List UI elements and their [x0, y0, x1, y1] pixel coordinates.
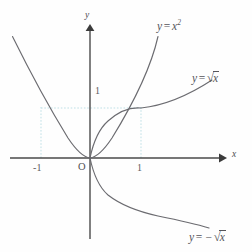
- sqrt-curve-label: y=√x: [192, 71, 219, 85]
- sqrt-label-radical: √x: [207, 71, 219, 85]
- parabola-curve-label: y=x2: [157, 19, 181, 32]
- negative-sqrt-curve-label: y=−√x: [189, 230, 226, 244]
- parabola-label-exponent: 2: [177, 18, 181, 27]
- negative-sqrt-label-sign: −: [204, 231, 214, 243]
- y-tick-label-one: 1: [95, 86, 100, 96]
- y-axis-label: y: [85, 11, 89, 21]
- x-axis-label: x: [232, 150, 236, 160]
- curve-sqrt: [90, 80, 212, 158]
- sqrt-label-equals: =: [197, 72, 207, 84]
- graph-canvas: [0, 0, 252, 252]
- function-graph-figure: x y O -1 1 1 y=x2 y=√x y=−√x: [0, 0, 252, 252]
- x-tick-label-negative-one: -1: [33, 163, 42, 173]
- curves: [13, 37, 213, 229]
- negative-sqrt-label-radicand: x: [219, 230, 226, 243]
- origin-label: O: [78, 162, 86, 173]
- x-tick-label-one: 1: [137, 163, 142, 173]
- negative-sqrt-label-radical: √x: [214, 230, 226, 244]
- parabola-label-equals: =: [162, 20, 172, 32]
- negative-sqrt-label-equals: =: [194, 231, 204, 243]
- sqrt-label-radicand: x: [213, 71, 220, 84]
- curve-negative-sqrt: [90, 158, 209, 228]
- curve-parabola: [13, 37, 159, 159]
- axes: [10, 24, 227, 239]
- x-axis-arrowhead: [219, 154, 227, 163]
- y-axis-arrowhead: [86, 24, 95, 31]
